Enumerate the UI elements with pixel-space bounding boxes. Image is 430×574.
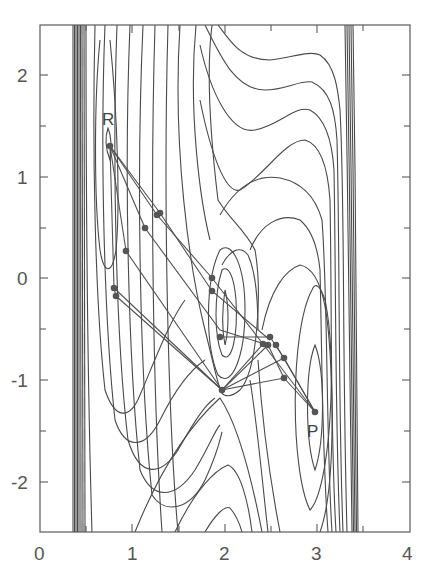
y-tick-0: 0 [17,268,28,289]
x-tick-4: 4 [402,543,413,564]
x-tick-1: 1 [127,543,138,564]
x-tick-2: 2 [219,543,230,564]
contour-plot: R P 0 1 2 3 4 [0,0,430,574]
y-tick-1: 1 [17,167,28,188]
reactant-label: R [102,110,114,129]
x-tick-3: 3 [311,543,322,564]
y-tick-neg2: -2 [11,472,28,493]
y-tick-2: 2 [17,65,28,86]
product-label: P [307,422,318,441]
x-tick-0: 0 [34,543,45,564]
y-tick-neg1: -1 [11,370,28,391]
contour-lines [73,25,358,532]
